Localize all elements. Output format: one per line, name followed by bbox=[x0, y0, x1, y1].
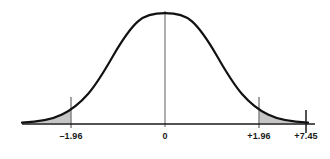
tick-label-upper-critical: +1.96 bbox=[247, 131, 270, 142]
tick-label-test-statistic: +7.45 bbox=[294, 131, 317, 142]
normal-curve-figure: –1.96 0 +1.96 +7.45 bbox=[0, 0, 330, 159]
upper-tail-shaded-region bbox=[259, 107, 306, 123]
tick-label-center: 0 bbox=[162, 131, 167, 142]
tick-label-lower-critical: –1.96 bbox=[59, 131, 82, 142]
